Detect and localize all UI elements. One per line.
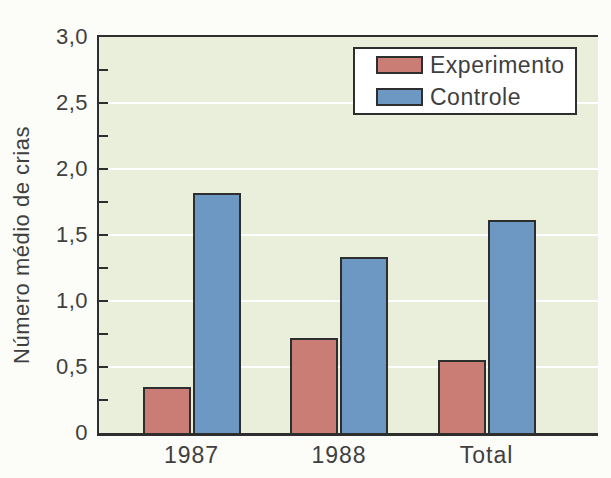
y-axis-tick-labels: 00,51,01,52,02,53,0 <box>0 37 88 433</box>
legend: Experimento Controle <box>353 47 577 115</box>
legend-item-experimento: Experimento <box>376 52 575 79</box>
chart: Número médio de crias 00,51,01,52,02,53,… <box>0 0 611 478</box>
bar-controle-1988 <box>340 257 388 433</box>
legend-label-experimento: Experimento <box>430 52 565 79</box>
bar-controle-1987 <box>193 193 241 433</box>
x-tick-label-1988: 1988 <box>311 442 366 469</box>
gridline <box>99 168 598 170</box>
y-axis-tick <box>99 300 108 302</box>
legend-swatch-controle <box>376 88 423 106</box>
y-axis-tick <box>99 366 108 368</box>
y-axis-tick <box>99 102 108 104</box>
bar-experimento-1988 <box>290 338 338 433</box>
y-tick-label-0: 0 <box>75 420 88 446</box>
legend-label-controle: Controle <box>430 84 521 111</box>
bar-controle-total <box>488 220 536 433</box>
y-axis-tick <box>99 399 108 401</box>
legend-item-controle: Controle <box>376 84 575 111</box>
x-tick-label-1987: 1987 <box>164 442 219 469</box>
y-tick-label-1,5: 1,5 <box>56 222 88 248</box>
bar-experimento-1987 <box>143 387 191 433</box>
y-tick-label-2,0: 2,0 <box>56 156 88 182</box>
x-tick-label-total: Total <box>460 442 514 469</box>
legend-swatch-experimento <box>376 56 423 74</box>
y-axis-tick <box>99 201 108 203</box>
y-axis-tick <box>99 69 108 71</box>
y-axis-tick <box>99 234 108 236</box>
y-axis-tick <box>99 135 108 137</box>
y-axis-tick <box>99 333 108 335</box>
bar-experimento-total <box>438 360 486 433</box>
y-tick-label-0,5: 0,5 <box>56 354 88 380</box>
y-axis-tick <box>99 267 108 269</box>
y-tick-label-3,0: 3,0 <box>56 24 88 50</box>
y-tick-label-2,5: 2,5 <box>56 90 88 116</box>
y-tick-label-1,0: 1,0 <box>56 288 88 314</box>
y-axis-tick <box>99 168 108 170</box>
x-axis-labels: 19871988Total <box>99 442 598 470</box>
